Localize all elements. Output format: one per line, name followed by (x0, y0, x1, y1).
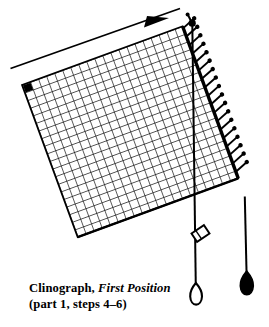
grid-board-lines (22, 26, 238, 237)
caption-line-1: Clinograph, First Position (29, 281, 219, 297)
plumb-string-right (245, 197, 247, 276)
figure-caption: Clinograph, First Position (part 1, step… (29, 281, 219, 312)
caption-title-italic: First Position (98, 281, 170, 295)
direction-arrow-head (144, 16, 169, 28)
pivot-nail-tip (186, 12, 190, 16)
plumb-bob-solid (240, 271, 253, 295)
clinograph-diagram (0, 0, 269, 327)
clinograph-figure: Clinograph, First Position (part 1, step… (0, 0, 269, 327)
caption-title-roman: Clinograph, (29, 281, 95, 295)
caption-line-2: (part 1, steps 4–6) (29, 297, 219, 313)
grid-board-group (20, 16, 253, 238)
plumb-line-solid-bob (240, 197, 253, 295)
